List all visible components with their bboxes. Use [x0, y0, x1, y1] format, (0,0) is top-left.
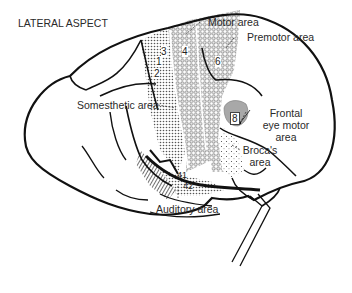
brodmann-6: 6: [215, 56, 221, 67]
brain-illustration: [0, 0, 352, 293]
label-frontal-eye-motor-area: Frontal eye motor area: [258, 107, 314, 143]
brodmann-4: 4: [182, 46, 188, 57]
brain-lateral-diagram: LATERAL ASPECT Motor area Premotor area …: [0, 0, 352, 293]
label-frontal-line3: area: [258, 131, 314, 143]
brodmann-41: 41: [177, 170, 187, 181]
label-premotor-area: Premotor area: [247, 31, 314, 43]
label-brocas-line2: area: [238, 156, 282, 168]
label-somesthetic-area: Somesthetic area: [77, 99, 159, 111]
title-lateral-aspect: LATERAL ASPECT: [18, 17, 108, 29]
label-motor-area: Motor area: [208, 16, 259, 28]
brodmann-1: 1: [156, 56, 162, 67]
label-frontal-line1: Frontal: [258, 107, 314, 119]
label-brocas-area: Broca's area: [238, 144, 282, 168]
label-frontal-line2: eye motor: [258, 119, 314, 131]
brodmann-42: 42: [183, 181, 193, 192]
label-brocas-line1: Broca's: [238, 144, 282, 156]
brodmann-8: 8: [230, 112, 240, 125]
label-auditory-area: Auditory area: [156, 203, 218, 215]
brodmann-2: 2: [154, 68, 160, 79]
